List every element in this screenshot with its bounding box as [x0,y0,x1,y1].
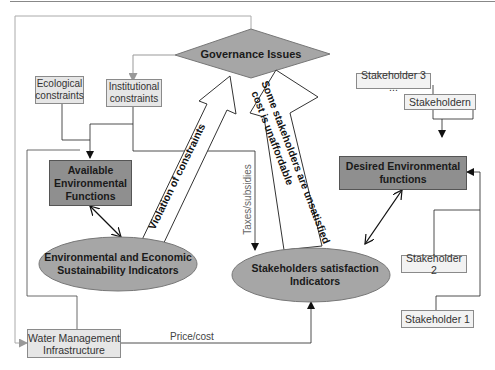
stakeholder-2-node: Stakeholder 2 [401,255,467,273]
available-line3: Functions [54,190,127,203]
institutional-to-available-connector [90,106,133,140]
stakeholder-3-node: Stakeholder 3 ... [356,73,431,89]
price-cost-label: Price/cost [170,331,214,342]
governance-issues-node: Governance Issues [195,44,307,64]
water-line2: Infrastructure [28,344,120,356]
price-text: Price/cost [170,331,214,342]
stakeholder-2-label: Stakeholder 2 [402,252,466,276]
stakeholder-3-label: Stakeholder 3 ... [357,69,430,93]
available-line1: Available [54,164,127,177]
desired-line2: functions [346,173,460,186]
stakeholder-n-label: Stakeholdern [409,96,471,108]
ecological-line2: constraints [35,90,83,102]
stakeholdern-to-desired-connector [442,110,473,119]
stakeholder-1-label: Stakeholder 1 [405,313,470,325]
desired-line1: Desired Environmental [346,160,460,173]
institutional-constraints-node: Institutional constraints [106,79,162,107]
available-line2: Environmental [54,177,127,190]
stakeholder-1-node: Stakeholder 1 [401,310,474,328]
desired-environmental-functions-node: Desired Environmental functions [339,156,467,190]
price-cost-connector [121,302,311,343]
available-environmental-functions-node: Available Environmental Functions [49,160,132,206]
taxes-text: Taxes/subsidies [242,164,253,235]
desired-env-bidirectional-arrow [365,190,402,244]
stakeholders-line1: Stakeholders satisfaction [251,262,378,275]
governance-to-institutional-connector [133,55,175,81]
governance-label: Governance Issues [201,48,302,61]
water-line1: Water Management [28,332,120,344]
ecological-constraints-node: Ecological constraints [35,76,84,104]
institutional-line1: Institutional [109,81,160,93]
env-econ-line2: Sustainability Indicators [44,264,192,277]
stakeholders-satisfaction-node: Stakeholders satisfaction Indicators [240,259,390,291]
stakeholder3-to-desired-connector [433,85,442,137]
diagram-canvas: Governance Issues Ecological constraints… [0,0,495,370]
stakeholder-n-node: Stakeholdern [404,94,476,110]
institutional-line2: constraints [109,93,160,105]
taxes-subsidies-label: Taxes/subsidies [242,164,253,235]
stakeholders-line2: Indicators [251,275,378,288]
env-econ-line1: Environmental and Economic [44,251,192,264]
ecological-line1: Ecological [35,78,83,90]
water-management-infrastructure-node: Water Management Infrastructure [27,329,121,358]
ecological-to-available-connector [62,100,90,158]
env-econ-sustainability-node: Environmental and Economic Sustainabilit… [40,248,196,280]
available-env-bidirectional-arrow [90,206,121,237]
